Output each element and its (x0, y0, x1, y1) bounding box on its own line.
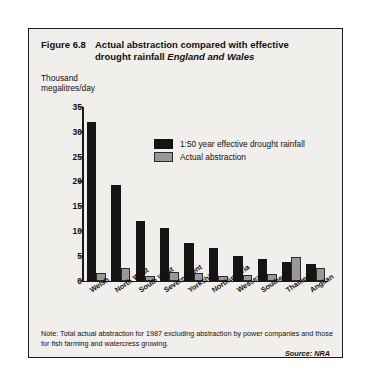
y-axis-title: Thousand megalitres/day (41, 73, 95, 93)
figure-note: Note: Total actual abstraction for 1987 … (41, 329, 333, 348)
y-tick-mark (78, 131, 83, 132)
figure-title-region: England and Wales (167, 51, 254, 62)
chart-legend: 1:50 year effective drought rainfall Act… (154, 139, 305, 165)
figure-title-line2: drought rainfall (95, 51, 165, 62)
y-tick-mark (78, 280, 83, 281)
x-axis-labels: WelshNorth WestSouth WestSevern TrentYor… (55, 287, 331, 329)
bar-drought (111, 185, 121, 280)
y-tick-mark (78, 205, 83, 206)
legend-label-drought: 1:50 year effective drought rainfall (180, 139, 305, 149)
figure-number: Figure 6.8 (41, 39, 95, 50)
bar-group (108, 107, 132, 281)
legend-item-abstraction: Actual abstraction (154, 152, 305, 162)
figure-title-block: Figure 6.8 Actual abstraction compared w… (41, 39, 336, 63)
legend-swatch-drought-icon (154, 139, 173, 149)
legend-item-drought: 1:50 year effective drought rainfall (154, 139, 305, 149)
bar-series-container (84, 107, 328, 281)
y-axis-title-line1: Thousand (41, 73, 95, 83)
figure-title: Actual abstraction compared with effecti… (95, 39, 289, 63)
bar-group (279, 107, 303, 281)
y-tick-mark (78, 156, 83, 157)
bar-group (255, 107, 279, 281)
plot-area: 05101520253035 (55, 107, 331, 287)
bar-group (304, 107, 328, 281)
y-tick-mark (78, 181, 83, 182)
legend-label-abstraction: Actual abstraction (180, 152, 246, 162)
bar-group (157, 107, 181, 281)
y-tick-mark (78, 255, 83, 256)
y-tick-mark (78, 106, 83, 107)
y-tick-mark (78, 230, 83, 231)
bar-group (230, 107, 254, 281)
figure-panel: Figure 6.8 Actual abstraction compared w… (28, 28, 343, 358)
bar-group (182, 107, 206, 281)
y-axis-title-line2: megalitres/day (41, 83, 95, 93)
figure-title-line1: Actual abstraction compared with effecti… (95, 39, 289, 50)
bar-drought (87, 122, 97, 281)
bar-group (84, 107, 108, 281)
bar-group (206, 107, 230, 281)
legend-swatch-abstraction-icon (154, 152, 173, 162)
bar-group (133, 107, 157, 281)
figure-source: Source: NRA (285, 349, 330, 358)
